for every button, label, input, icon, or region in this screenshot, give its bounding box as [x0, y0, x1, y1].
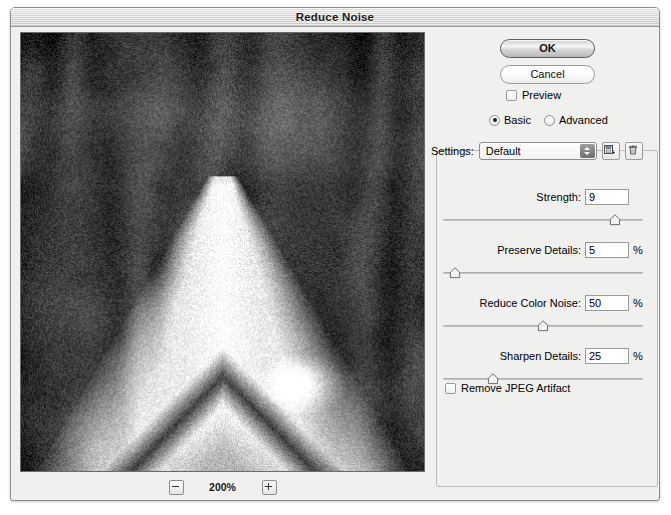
sharpen-details-input[interactable]: 25 — [585, 348, 629, 364]
preserve-details-slider[interactable] — [443, 265, 643, 281]
settings-dropdown-value: Default — [480, 145, 521, 157]
zoom-controls: 200% — [20, 478, 425, 496]
radio-advanced[interactable]: Advanced — [544, 114, 608, 126]
ok-button[interactable]: OK — [500, 39, 595, 58]
reduce-color-noise-input[interactable]: 50 — [585, 295, 629, 311]
zoom-in-button[interactable] — [262, 480, 277, 495]
preview-checkbox[interactable]: Preview — [506, 89, 561, 101]
slider-track[interactable] — [443, 378, 643, 380]
mode-radio-group: Basic Advanced — [489, 114, 608, 126]
control-unit: % — [633, 350, 643, 362]
settings-row: Settings: Default — [431, 142, 643, 160]
control-unit: % — [633, 244, 643, 256]
preserve-details-input[interactable]: 5 — [585, 242, 629, 258]
reduce-noise-dialog: Reduce Noise 200% OK Cancel Preview Basi… — [10, 7, 660, 501]
slider-handle[interactable] — [609, 214, 621, 226]
control-sharpen-details: Sharpen Details: 25 % — [443, 347, 643, 387]
controls-panel: OK Cancel Preview Basic Advanced Setting… — [431, 30, 653, 492]
titlebar[interactable]: Reduce Noise — [11, 8, 659, 27]
radio-advanced-dot[interactable] — [544, 115, 555, 126]
control-header: Sharpen Details: 25 % — [443, 347, 643, 365]
control-unit: % — [633, 297, 643, 309]
control-label: Sharpen Details: — [500, 350, 581, 362]
settings-dropdown[interactable]: Default — [479, 142, 597, 160]
radio-advanced-label: Advanced — [559, 114, 608, 126]
checkbox-box[interactable] — [506, 90, 517, 101]
remove-jpeg-artifact-label: Remove JPEG Artifact — [461, 382, 570, 394]
slider-handle[interactable] — [449, 267, 461, 279]
save-disk-icon[interactable] — [602, 142, 620, 160]
radio-basic-dot[interactable] — [489, 115, 500, 126]
control-label: Reduce Color Noise: — [480, 297, 582, 309]
remove-jpeg-artifact-checkbox[interactable]: Remove JPEG Artifact — [445, 382, 570, 394]
control-reduce-color-noise: Reduce Color Noise: 50 % — [443, 294, 643, 334]
strength-slider[interactable] — [443, 212, 643, 228]
radio-basic-label: Basic — [504, 114, 531, 126]
slider-track[interactable] — [443, 272, 643, 274]
image-preview-panel[interactable] — [20, 32, 425, 472]
slider-handle[interactable] — [537, 320, 549, 332]
control-label: Preserve Details: — [497, 244, 581, 256]
strength-input[interactable]: 9 — [585, 189, 629, 205]
checkbox-box[interactable] — [445, 383, 456, 394]
zoom-level-label: 200% — [206, 481, 240, 493]
control-header: Strength: 9 — [443, 188, 643, 206]
radio-basic[interactable]: Basic — [489, 114, 531, 126]
cancel-button[interactable]: Cancel — [500, 65, 595, 84]
reduce-color-noise-slider[interactable] — [443, 318, 643, 334]
control-preserve-details: Preserve Details: 5 % — [443, 241, 643, 281]
control-header: Reduce Color Noise: 50 % — [443, 294, 643, 312]
window-title: Reduce Noise — [296, 11, 374, 23]
control-label: Strength: — [536, 191, 581, 203]
trash-icon[interactable] — [625, 142, 643, 160]
settings-label: Settings: — [431, 145, 474, 157]
control-header: Preserve Details: 5 % — [443, 241, 643, 259]
slider-controls: Strength: 9 Preserve Details: 5 — [443, 188, 643, 400]
zoom-out-button[interactable] — [169, 480, 184, 495]
chevron-updown-icon — [580, 144, 595, 158]
preview-checkbox-label: Preview — [522, 89, 561, 101]
control-strength: Strength: 9 — [443, 188, 643, 228]
image-preview[interactable] — [20, 32, 425, 472]
